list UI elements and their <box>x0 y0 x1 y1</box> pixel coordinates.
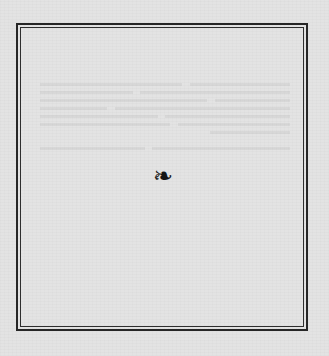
fleuron-icon: ❧ <box>148 162 178 190</box>
fleuron-glyph: ❧ <box>153 164 173 188</box>
